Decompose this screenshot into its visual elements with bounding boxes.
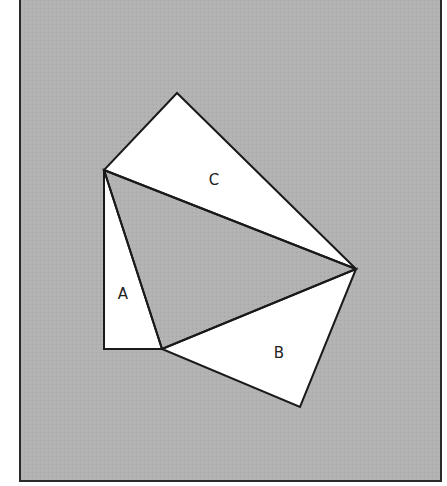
label-b: B [274,344,284,362]
label-c: C [209,171,219,189]
label-a: A [118,285,129,303]
diagram-frame [20,0,441,481]
pythagoras-diagram: ABC [0,0,447,486]
